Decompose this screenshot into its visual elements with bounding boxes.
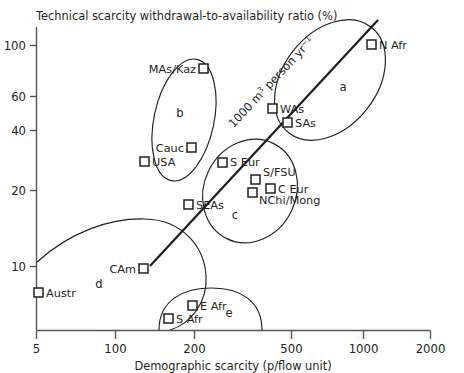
x-tick-label-200: 200: [183, 342, 205, 356]
x-tick-label-500: 500: [280, 342, 302, 356]
y-tick-labels: 100 60 40 20 10: [4, 39, 26, 274]
data-point-cauc[interactable]: Cauc: [156, 142, 196, 155]
point-label-s-afr: S Afr: [176, 313, 203, 326]
marker-cauc[interactable]: [187, 143, 196, 152]
point-label-austr: Austr: [46, 287, 76, 300]
data-point-s-eur[interactable]: S Eur: [218, 156, 260, 169]
x-tick-label-1000: 1000: [349, 342, 379, 356]
point-label-usa: USA: [152, 156, 176, 169]
data-point-s-afr[interactable]: S Afr: [164, 313, 203, 326]
y-tick-label-10: 10: [11, 260, 26, 274]
point-label-cauc: Cauc: [156, 142, 184, 155]
data-point-cam[interactable]: CAm: [109, 263, 148, 276]
marker-austr[interactable]: [34, 288, 43, 297]
cluster-label-b: b: [176, 106, 183, 120]
refline-mid: person yr: [259, 42, 309, 94]
data-point-n-afr[interactable]: N Afr: [367, 39, 407, 52]
x-axis-title: Demographic scarcity (p/flow unit): [134, 359, 331, 373]
data-points: N Afr WAs SAs MAs/Kaz Cauc USA: [34, 39, 407, 326]
y-tick-label-60: 60: [11, 90, 26, 104]
marker-was[interactable]: [268, 104, 277, 113]
point-label-e-afr: E Afr: [200, 300, 227, 313]
marker-n-afr[interactable]: [367, 40, 376, 49]
chart-title: Technical scarcity withdrawal-to-availab…: [35, 9, 337, 23]
data-point-was[interactable]: WAs: [268, 103, 304, 116]
y-tick-label-100: 100: [4, 39, 26, 53]
marker-s-fsu[interactable]: [251, 175, 260, 184]
cluster-label-d: d: [95, 277, 102, 291]
data-point-usa[interactable]: USA: [140, 156, 176, 169]
marker-mas-kaz[interactable]: [199, 64, 208, 73]
data-point-austr[interactable]: Austr: [34, 287, 76, 300]
point-label-nchi-mong: NChi/Mong: [259, 194, 320, 207]
data-point-e-afr[interactable]: E Afr: [188, 300, 227, 313]
data-point-sas[interactable]: SAs: [283, 117, 316, 130]
x-tick-label-2000: 2000: [416, 342, 446, 356]
marker-sas[interactable]: [283, 118, 292, 127]
reference-line-1000m3: [150, 20, 378, 266]
marker-seas[interactable]: [184, 200, 193, 209]
marker-cam[interactable]: [139, 264, 148, 273]
x-tick-labels: 5 100 200 500 1000 2000: [33, 342, 446, 356]
marker-c-eur[interactable]: [266, 184, 275, 193]
y-tick-label-40: 40: [11, 124, 26, 138]
refline-main: 1000 m: [226, 89, 266, 131]
y-tick-label-20: 20: [11, 184, 26, 198]
marker-nchi-mong[interactable]: [248, 188, 257, 197]
marker-s-afr[interactable]: [164, 314, 173, 323]
axes: [30, 27, 431, 339]
marker-usa[interactable]: [140, 157, 149, 166]
chart-figure: 100 60 40 20 10 5 100 200 500 1000 2000 …: [0, 0, 464, 373]
data-point-seas[interactable]: SEAs: [184, 199, 224, 212]
scatter-plot: 100 60 40 20 10 5 100 200 500 1000 2000 …: [0, 0, 464, 373]
point-label-n-afr: N Afr: [379, 39, 407, 52]
marker-s-eur[interactable]: [218, 158, 227, 167]
point-label-cam: CAm: [109, 263, 136, 276]
point-label-mas-kaz: MAs/Kaz: [149, 63, 196, 76]
point-label-seas: SEAs: [196, 199, 224, 212]
point-label-s-eur: S Eur: [230, 156, 260, 169]
point-label-s-fsu: S/FSU: [263, 166, 296, 179]
x-tick-label-5: 5: [33, 342, 40, 356]
x-tick-label-100: 100: [104, 342, 126, 356]
cluster-label-c: c: [232, 208, 238, 222]
marker-e-afr[interactable]: [188, 301, 197, 310]
cluster-label-a: a: [339, 80, 346, 94]
point-label-was: WAs: [280, 103, 304, 116]
point-label-sas: SAs: [295, 117, 316, 130]
data-point-mas-kaz[interactable]: MAs/Kaz: [149, 63, 208, 76]
